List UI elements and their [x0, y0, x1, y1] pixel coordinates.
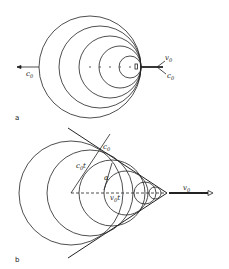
label-b-v0: v0: [183, 184, 191, 193]
label-a-v0: v0: [165, 54, 173, 63]
mach-cone-lower: [68, 193, 167, 258]
diagram-canvas: c0 v0 c0 a c0 c0t α v0t v0 b: [0, 0, 229, 269]
label-b-cone: c0: [103, 143, 111, 152]
label-b-radius: c0t: [76, 162, 86, 171]
panel-label-a: a: [15, 114, 19, 122]
velocity-arrowhead-b: [208, 191, 213, 196]
panel-label-b: b: [15, 256, 20, 264]
left-arrowhead: [17, 66, 21, 69]
panel-a: [17, 16, 166, 118]
sound-tick: [157, 67, 166, 74]
source-dots: [89, 66, 131, 68]
source-marker: [135, 64, 138, 69]
label-a-left: c0: [26, 70, 34, 79]
label-a-c0: c0: [167, 72, 175, 81]
panel-b: [19, 128, 213, 258]
mach-cone-upper: [68, 128, 167, 193]
label-b-alpha: α: [104, 174, 109, 182]
mach-circle-2: [47, 150, 133, 236]
label-b-v0t: v0t: [110, 194, 120, 203]
